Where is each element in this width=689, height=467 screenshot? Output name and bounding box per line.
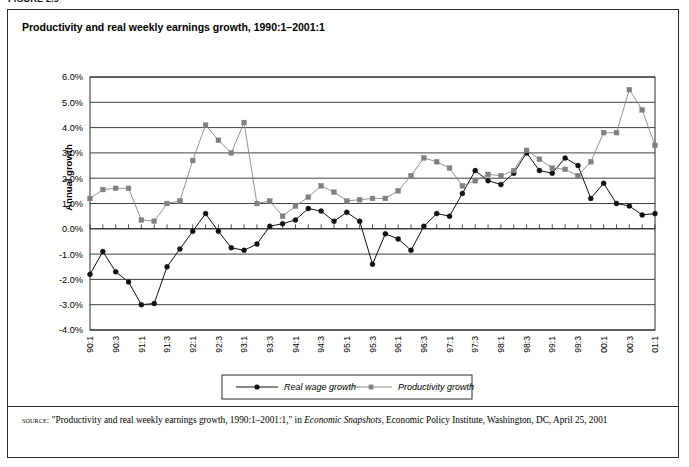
source-divider [7,406,679,407]
figure-number-label: FIGURE 2.9 [8,0,59,4]
figure-container [7,9,679,458]
source-publication-title: Economic Snapshots [304,415,381,425]
y-axis-title: Annual growth [63,133,74,223]
chart-title: Productivity and real weekly earnings gr… [22,21,325,33]
source-text-part1: "Productivity and real weekly earnings g… [52,415,304,425]
source-kicker: source: [22,415,49,425]
source-note: source: "Productivity and real weekly ea… [22,414,662,428]
source-text-part2: , Economic Policy Institute, Washington,… [381,415,607,425]
